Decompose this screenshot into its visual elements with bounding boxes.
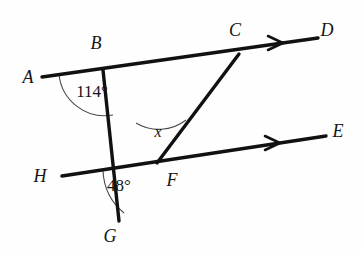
point-label-G: G <box>104 226 117 246</box>
geometry-diagram: A B C D E F G H 114° x 48° <box>0 0 363 253</box>
angle-label-48: 48° <box>107 176 131 195</box>
point-label-E: E <box>332 121 344 141</box>
angle-label-x: x <box>153 123 161 140</box>
point-label-C: C <box>229 20 242 40</box>
line-AD <box>42 38 318 77</box>
point-label-A: A <box>22 67 35 87</box>
point-label-D: D <box>320 20 334 40</box>
point-label-H: H <box>33 166 48 186</box>
line-CF <box>157 54 239 163</box>
geometry-figure: A B C D E F G H 114° x 48° <box>0 0 363 253</box>
point-label-F: F <box>166 170 179 190</box>
point-label-B: B <box>91 33 102 53</box>
angle-label-114: 114° <box>76 82 108 101</box>
line-HE <box>62 136 326 176</box>
